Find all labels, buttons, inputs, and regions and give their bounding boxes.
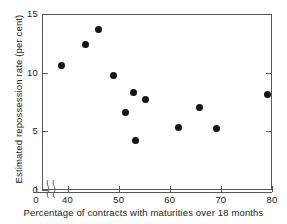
scatter-chart-figure: 051015 4050607080 0 Estimated repossessi…: [0, 0, 287, 224]
data-point: [58, 62, 65, 69]
x-axis-line: [33, 192, 272, 193]
plot-data-area: [42, 14, 272, 190]
x-tick-label-60: 60: [155, 195, 185, 205]
x-tick-label-50: 50: [104, 195, 134, 205]
y-axis-label: Estimated repossession rate (per cent): [14, 9, 24, 189]
y-axis-tick: [42, 131, 48, 132]
axis-break-icon: [44, 180, 60, 198]
data-point: [122, 109, 129, 116]
data-point: [264, 91, 271, 98]
data-point: [110, 72, 117, 79]
x-tick-label-70: 70: [206, 195, 236, 205]
y-axis-tick-right: [266, 131, 272, 132]
data-point: [142, 96, 149, 103]
x-axis-zero-tick: [36, 186, 37, 192]
x-axis-tick: [272, 186, 273, 192]
y-axis-tick: [42, 73, 48, 74]
y-axis-tick: [42, 14, 48, 15]
data-point: [130, 89, 137, 96]
data-point: [132, 137, 139, 144]
x-tick-label-80: 80: [257, 195, 287, 205]
data-point: [213, 125, 220, 132]
data-point: [196, 104, 203, 111]
y-axis-tick-right: [266, 73, 272, 74]
data-point: [95, 26, 102, 33]
x-axis-label: Percentage of contracts with maturities …: [0, 208, 287, 218]
data-point: [82, 41, 89, 48]
data-point: [175, 124, 182, 131]
